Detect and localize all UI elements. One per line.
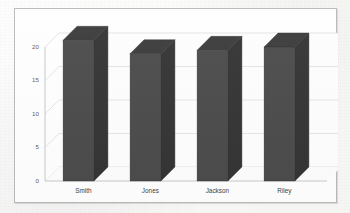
category-label: Smith	[75, 187, 92, 194]
bar-front-face	[63, 40, 94, 181]
bar-side-face	[228, 36, 242, 181]
bar-front-face	[264, 47, 295, 181]
bar-chart-plot: 05101520 SmithJonesJacksonRiley	[15, 9, 338, 204]
y-tick-label: 20	[32, 43, 39, 50]
bar-side-face	[161, 40, 175, 181]
bar-smith[interactable]	[63, 26, 108, 181]
bar-chart-svg: 05101520 SmithJonesJacksonRiley	[15, 9, 338, 204]
y-tick-labels-group: 05101520	[32, 43, 39, 184]
gridline-depth	[45, 33, 59, 47]
bar-jackson[interactable]	[197, 36, 242, 181]
y-tick-label: 15	[32, 76, 39, 83]
category-label: Jones	[142, 187, 159, 194]
gridline-depth	[45, 134, 59, 148]
bar-riley[interactable]	[264, 33, 309, 181]
y-tick-label: 0	[36, 177, 40, 184]
category-label: Riley	[277, 187, 292, 195]
bar-front-face	[130, 54, 161, 181]
y-tick-label: 10	[32, 110, 39, 117]
category-labels-group: SmithJonesJacksonRiley	[75, 187, 292, 195]
chart-frame: 05101520 SmithJonesJacksonRiley	[14, 8, 337, 203]
gridline-depth	[45, 100, 59, 114]
bar-jones[interactable]	[130, 40, 175, 181]
gridline-depth	[45, 67, 59, 81]
bar-side-face	[295, 33, 309, 181]
bar-side-face	[94, 26, 108, 181]
category-label: Jackson	[206, 187, 230, 194]
bar-front-face	[197, 50, 228, 181]
y-tick-label: 5	[36, 143, 40, 150]
